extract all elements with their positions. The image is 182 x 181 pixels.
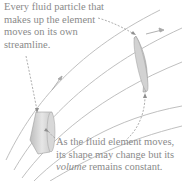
caption-line-rest: remains constant. — [86, 161, 162, 172]
caption-streamline-particles: Every fluid particle that makes up the e… — [4, 1, 124, 51]
caption-line: Every fluid particle that — [4, 1, 124, 14]
caption-line: volume remains constant. — [56, 161, 182, 174]
caption-line: As the fluid element moves, — [56, 136, 182, 149]
caption-line: moves on its own — [4, 26, 124, 39]
fluid-element-end — [131, 36, 150, 92]
volume-emphasis: volume — [56, 161, 86, 172]
caption-line: makes up the element — [4, 14, 124, 27]
streamline-diagram: Every fluid particle that makes up the e… — [0, 0, 182, 181]
caption-constant-volume: As the fluid element moves, its shape ma… — [56, 136, 182, 174]
fluid-element-start — [30, 112, 55, 154]
caption-line: streamline. — [4, 39, 124, 52]
caption-line: its shape may change but its — [56, 149, 182, 162]
